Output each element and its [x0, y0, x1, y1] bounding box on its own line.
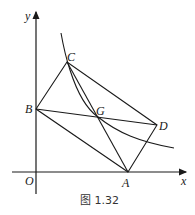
point-B-label: B [25, 102, 33, 116]
diagram-canvas: y x O A B C D G 图 1.32 [0, 0, 195, 215]
point-D-label: D [158, 119, 168, 133]
curve [61, 33, 174, 148]
point-A-label: A [121, 176, 130, 190]
point-G-label: G [96, 104, 105, 118]
x-axis-label: x [180, 174, 187, 188]
point-C-label: C [67, 50, 76, 64]
origin-label: O [25, 174, 34, 188]
y-axis-label: y [24, 9, 31, 23]
figure-caption: 图 1.32 [80, 194, 119, 207]
